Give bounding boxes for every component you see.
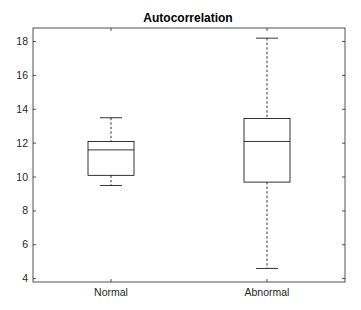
x-tick-label: Normal	[94, 286, 128, 298]
y-axis: 4681012141618	[16, 35, 345, 284]
y-tick-label: 10	[16, 171, 28, 183]
box-abnormal	[244, 38, 290, 268]
y-tick-label: 4	[22, 272, 28, 284]
x-tick-label: Abnormal	[245, 286, 290, 298]
y-tick-label: 6	[22, 238, 28, 250]
box-series	[88, 38, 290, 268]
chart-title: Autocorrelation	[143, 11, 232, 25]
y-tick-label: 14	[16, 103, 28, 115]
y-tick-label: 8	[22, 204, 28, 216]
iqr-box	[88, 141, 134, 175]
iqr-box	[244, 119, 290, 182]
x-axis: NormalAbnormal	[94, 28, 289, 298]
y-tick-label: 12	[16, 137, 28, 149]
boxplot-chart: Autocorrelation 4681012141618 NormalAbno…	[0, 0, 361, 310]
box-normal	[88, 118, 134, 186]
y-tick-label: 16	[16, 69, 28, 81]
y-tick-label: 18	[16, 35, 28, 47]
axes-box	[33, 28, 345, 282]
